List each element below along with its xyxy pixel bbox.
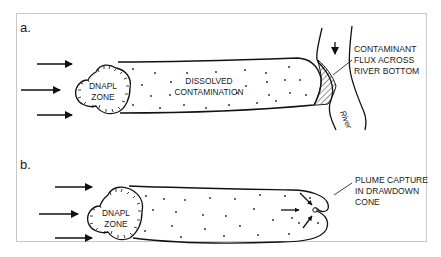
callout-a-3: RIVER BOTTOM (354, 66, 419, 76)
plume-label-1: DISSOLVED (185, 76, 232, 86)
flux-zone-hatch (314, 60, 336, 105)
dnapl-label-a-1: DNAPL (89, 81, 117, 91)
diagram-canvas: a. River DNAPL ZONE (0, 0, 441, 257)
plume-label-2: CONTAMINATION (174, 87, 243, 97)
callout-b-1: PLUME CAPTURE (355, 175, 428, 185)
panel-b-label: b. (20, 157, 31, 172)
dnapl-label-b-2: ZONE (104, 219, 128, 229)
dnapl-label-b-1: DNAPL (102, 208, 130, 218)
panel-b: b. DNAPL ZONE (20, 157, 428, 243)
capture-arrow-icon (300, 193, 312, 205)
contamination-dots-b (144, 194, 319, 238)
callout-a-1: CONTAMINANT (354, 44, 417, 54)
callout-leader-b (334, 183, 352, 195)
panel-a: a. River DNAPL ZONE (20, 20, 419, 130)
dnapl-label-a-2: ZONE (91, 92, 115, 102)
flow-arrows-a (21, 64, 72, 115)
callout-b-2: IN DRAWDOWN (355, 186, 419, 196)
well-icon (313, 208, 317, 212)
flow-arrows-b (39, 187, 92, 238)
plume-outline-b (129, 186, 328, 243)
capture-arrow-icon (303, 216, 312, 228)
callout-b-3: CONE (355, 197, 380, 207)
panel-a-label: a. (20, 20, 31, 35)
river-bank-right (349, 26, 366, 130)
river-label: River (338, 109, 353, 130)
callout-a-2: FLUX ACROSS (354, 55, 414, 65)
